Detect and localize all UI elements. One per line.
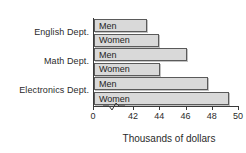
- bar-electronics-women: Women: [94, 92, 229, 105]
- x-tick-label-48: 48: [207, 111, 217, 121]
- x-axis-title: Thousands of dollars: [93, 133, 245, 144]
- category-label-math-dept: Math Dept.: [0, 56, 89, 66]
- x-tick-48: [212, 106, 213, 110]
- x-tick-46: [186, 106, 187, 110]
- x-tick-label-44: 44: [154, 111, 164, 121]
- category-label-electronics-dept: Electronics Dept.: [0, 85, 89, 95]
- x-tick-0: [93, 106, 94, 110]
- x-tick-label-50: 50: [233, 111, 243, 121]
- bar-label-english-women: Women: [99, 36, 130, 45]
- bar-label-math-women: Women: [99, 65, 130, 74]
- x-tick-label-0: 0: [90, 111, 95, 121]
- x-tick-label-46: 46: [180, 111, 190, 121]
- bar-electronics-men: Men: [94, 77, 208, 90]
- bar-label-electronics-men: Men: [99, 79, 117, 88]
- bar-math-men: Men: [94, 48, 187, 61]
- plot-area: Men Women Men Women Men Women 0 42 44 4: [93, 18, 245, 106]
- x-tick-50: [238, 106, 239, 110]
- bar-math-women: Women: [94, 63, 160, 76]
- x-axis-line: [93, 106, 239, 107]
- x-tick-42: [133, 106, 134, 110]
- bar-label-electronics-women: Women: [99, 94, 130, 103]
- bar-label-math-men: Men: [99, 50, 117, 59]
- x-tick-label-42: 42: [128, 111, 138, 121]
- bar-english-women: Women: [94, 34, 159, 47]
- x-tick-44: [159, 106, 160, 110]
- category-label-english-dept: English Dept.: [0, 27, 89, 37]
- bar-english-men: Men: [94, 19, 147, 32]
- bar-chart-figure: English Dept. Math Dept. Electronics Dep…: [0, 0, 246, 153]
- bar-label-english-men: Men: [99, 21, 117, 30]
